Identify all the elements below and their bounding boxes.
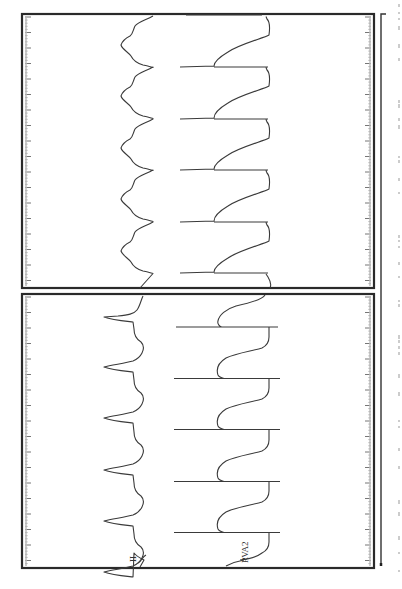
lead-ii-label-leader <box>138 555 146 563</box>
panel-bottom: II RVA2 <box>22 294 374 577</box>
panel-bottom-frame <box>22 294 374 568</box>
time-ruler-left <box>25 297 31 566</box>
time-ruler-right <box>365 297 371 566</box>
figure-bracket <box>381 14 386 566</box>
lead-ii-trace <box>121 16 153 288</box>
lead-ii-label: II <box>128 556 138 562</box>
lead-ii-trace <box>104 296 144 577</box>
time-ruler-left <box>25 17 31 286</box>
time-ruler-right <box>365 17 371 286</box>
rva2-trace <box>174 295 280 560</box>
panel-top-frame <box>22 14 374 288</box>
rva2-label: RVA2 <box>240 541 250 563</box>
panel-top <box>22 14 374 288</box>
ecg-figure: II RVA2 <box>0 0 402 589</box>
rva2-trace <box>180 15 271 288</box>
